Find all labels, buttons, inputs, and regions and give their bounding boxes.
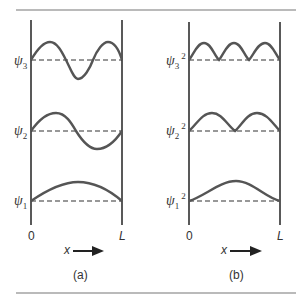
psi3-squared-curve (189, 43, 280, 60)
psi-symbol: ψ (166, 53, 175, 68)
psi2-squared-curve (189, 113, 280, 131)
psi-symbol: ψ (14, 53, 23, 68)
superscript: 2 (181, 121, 186, 131)
label-psi2: ψ2 (14, 124, 27, 138)
psi2-curve (31, 113, 122, 149)
x-end-label: L (119, 229, 126, 243)
panel-a (31, 20, 122, 256)
x-axis-label: x (64, 243, 70, 257)
label-psi1: ψ1 (14, 194, 27, 208)
x-end-label: L (277, 229, 284, 243)
x-arrow-head (250, 246, 262, 256)
psi1-curve (31, 182, 122, 201)
subscript: 3 (23, 61, 28, 71)
psi1-squared-curve (189, 181, 280, 201)
psi-symbol: ψ (14, 123, 23, 138)
subscript: 2 (175, 131, 180, 141)
label-psi2-squared: ψ22 (166, 124, 186, 138)
caption-a: (a) (73, 268, 88, 282)
psi3-curve (31, 42, 122, 79)
x-start-label: 0 (186, 229, 193, 243)
x-axis-label: x (221, 243, 227, 257)
panel-b (189, 22, 280, 256)
subscript: 3 (175, 61, 180, 71)
x-start-label: 0 (28, 229, 35, 243)
label-psi3-squared: ψ32 (166, 54, 186, 68)
x-arrow-head (92, 246, 104, 256)
psi-symbol: ψ (166, 193, 175, 208)
subscript: 1 (175, 201, 180, 211)
subscript: 2 (23, 131, 28, 141)
label-psi3: ψ3 (14, 54, 27, 68)
particle-in-box-diagram (0, 0, 296, 296)
caption-b: (b) (229, 268, 244, 282)
superscript: 2 (181, 51, 186, 61)
superscript: 2 (181, 191, 186, 201)
psi-symbol: ψ (166, 123, 175, 138)
subscript: 1 (23, 201, 28, 211)
psi-symbol: ψ (14, 193, 23, 208)
label-psi1-squared: ψ12 (166, 194, 186, 208)
